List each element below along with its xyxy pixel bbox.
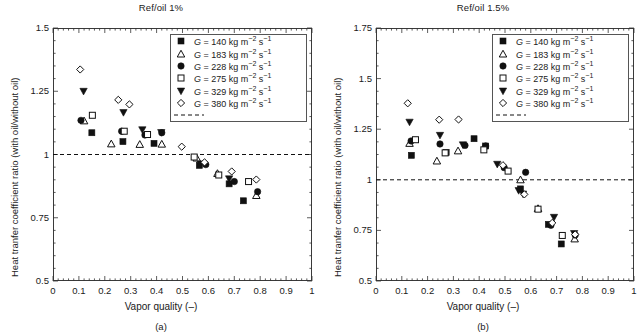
panel-a-legend: G = 140 kg m−2 s−1G = 183 kg m−2 s−1G = … xyxy=(170,34,307,122)
x-tick-label-3: 0.3 xyxy=(118,285,144,296)
y-tick-label-0: 0.5 xyxy=(15,275,49,286)
chart-panel-b: Ref/oil 1.5% 00.10.20.30.40.50.60.70.80.… xyxy=(322,0,644,334)
filled-square-icon xyxy=(493,35,513,47)
open-triangle-icon xyxy=(493,48,513,60)
data-point-open-diamond-5-5 xyxy=(228,168,235,175)
data-point-open-square-3-4 xyxy=(535,206,541,212)
data-point-open-diamond-5-2 xyxy=(455,116,462,123)
x-tick-label-3: 0.3 xyxy=(440,285,466,296)
data-point-open-triangle-1-2 xyxy=(136,141,144,148)
data-point-open-diamond-5-3 xyxy=(178,143,185,150)
data-point-filled-square-0-6 xyxy=(558,241,564,247)
x-tick-label-1: 0.1 xyxy=(389,285,415,296)
legend-label-380: G = 380 kg m−2 s−1 xyxy=(191,97,271,109)
legend-label-275: G = 275 kg m−2 s−1 xyxy=(513,72,593,84)
data-point-open-diamond-5-1 xyxy=(436,116,443,123)
legend-label-140: G = 140 kg m−2 s−1 xyxy=(513,35,593,47)
data-point-filled-triangle-down-4-1 xyxy=(120,110,127,117)
data-point-filled-circle-2-5 xyxy=(231,178,237,184)
data-point-open-square-3-3 xyxy=(191,154,197,160)
filled-square-glyph xyxy=(178,38,184,44)
legend-label-228: G = 228 kg m−2 s−1 xyxy=(191,60,271,72)
legend-entry-380: G = 380 kg m−2 s−1 xyxy=(171,97,306,109)
legend-entry-228: G = 228 kg m−2 s−1 xyxy=(171,60,306,72)
y-tick-label-1: 0.75 xyxy=(338,224,372,235)
data-point-filled-circle-2-5 xyxy=(522,169,528,175)
x-tick-label-5: 0.5 xyxy=(170,285,196,296)
data-point-open-diamond-5-6 xyxy=(253,176,260,183)
open-triangle-glyph xyxy=(499,50,507,57)
data-point-open-diamond-5-2 xyxy=(126,101,133,108)
reference-line-ratio-1-icon xyxy=(171,109,306,120)
y-tick-label-2: 1 xyxy=(15,149,49,160)
data-point-filled-triangle-down-4-0 xyxy=(406,119,413,126)
legend-entry-183: G = 183 kg m−2 s−1 xyxy=(493,47,628,59)
data-point-open-square-3-1 xyxy=(442,150,448,156)
data-point-open-triangle-1-3 xyxy=(158,140,166,147)
x-tick-label-2: 0.2 xyxy=(92,285,118,296)
y-tick-label-2: 1 xyxy=(338,174,372,185)
legend-label-228: G = 228 kg m−2 s−1 xyxy=(513,60,593,72)
x-tick-label-0: 0 xyxy=(40,285,66,296)
open-square-icon xyxy=(493,72,513,84)
x-tick-label-1: 0.1 xyxy=(66,285,92,296)
legend-entry-228: G = 228 kg m−2 s−1 xyxy=(493,60,628,72)
legend-entry-380: G = 380 kg m−2 s−1 xyxy=(493,97,628,109)
legend-entry-140: G = 140 kg m−2 s−1 xyxy=(493,35,628,47)
legend-label-140: G = 140 kg m−2 s−1 xyxy=(191,35,271,47)
x-tick-label-0: 0 xyxy=(363,285,389,296)
open-square-glyph xyxy=(500,75,506,81)
legend-label-275: G = 275 kg m−2 s−1 xyxy=(191,72,271,84)
x-tick-label-6: 0.6 xyxy=(195,285,221,296)
data-point-open-square-3-0 xyxy=(412,137,418,143)
x-tick-label-4: 0.4 xyxy=(144,285,170,296)
panel-a-x-axis-label: Vapor quality (–) xyxy=(0,301,322,312)
data-point-open-diamond-5-0 xyxy=(404,100,411,107)
data-point-open-diamond-5-0 xyxy=(77,66,84,73)
filled-triangle-down-icon xyxy=(493,85,513,97)
data-point-filled-circle-2-1 xyxy=(437,141,443,147)
data-point-open-square-3-0 xyxy=(89,112,95,118)
legend-label-183: G = 183 kg m−2 s−1 xyxy=(191,48,271,60)
data-point-open-triangle-1-1 xyxy=(108,140,116,147)
filled-triangle-down-glyph xyxy=(499,88,506,95)
filled-circle-glyph xyxy=(500,63,506,69)
filled-triangle-down-icon xyxy=(171,85,191,97)
data-point-filled-square-0-2 xyxy=(151,140,157,146)
legend-label-329: G = 329 kg m−2 s−1 xyxy=(191,85,271,97)
data-point-filled-square-0-2 xyxy=(471,136,477,142)
data-point-filled-circle-2-6 xyxy=(254,188,260,194)
filled-triangle-down-glyph xyxy=(177,88,184,95)
x-tick-label-4: 0.4 xyxy=(466,285,492,296)
open-triangle-glyph xyxy=(177,50,185,57)
x-tick-label-5: 0.5 xyxy=(492,285,518,296)
legend-label-183: G = 183 kg m−2 s−1 xyxy=(513,48,593,60)
legend-entry-329: G = 329 kg m−2 s−1 xyxy=(171,85,306,97)
open-diamond-glyph xyxy=(177,100,184,107)
y-tick-label-3: 1.25 xyxy=(338,123,372,134)
data-point-open-square-3-3 xyxy=(505,168,511,174)
open-diamond-icon xyxy=(171,97,191,109)
panel-b-legend: G = 140 kg m−2 s−1G = 183 kg m−2 s−1G = … xyxy=(492,34,629,122)
x-tick-label-9: 0.9 xyxy=(273,285,299,296)
filled-square-icon xyxy=(171,35,191,47)
legend-label-380: G = 380 kg m−2 s−1 xyxy=(513,97,593,109)
y-tick-label-5: 1.75 xyxy=(338,22,372,33)
filled-circle-icon xyxy=(493,60,513,72)
y-tick-label-0: 0.5 xyxy=(338,275,372,286)
x-tick-label-8: 0.8 xyxy=(247,285,273,296)
legend-entry-275: G = 275 kg m−2 s−1 xyxy=(171,72,306,84)
legend-entry-140: G = 140 kg m−2 s−1 xyxy=(171,35,306,47)
panel-a-caption: (a) xyxy=(0,321,322,332)
open-square-icon xyxy=(171,72,191,84)
open-square-glyph xyxy=(178,75,184,81)
x-tick-label-10: 1 xyxy=(621,285,644,296)
panel-b-caption: (b) xyxy=(322,321,644,332)
filled-square-glyph xyxy=(500,38,506,44)
data-point-filled-square-0-0 xyxy=(408,152,414,158)
panel-a-y-axis-label: Heat tranfer coefficient ratio (with oil… xyxy=(9,78,20,277)
data-point-filled-square-0-5 xyxy=(240,198,246,204)
legend-entry-275: G = 275 kg m−2 s−1 xyxy=(493,72,628,84)
data-point-open-square-3-5 xyxy=(559,232,565,238)
panel-b-y-axis-label: Heat tranfer coefficient ratio (with oil… xyxy=(332,78,343,277)
